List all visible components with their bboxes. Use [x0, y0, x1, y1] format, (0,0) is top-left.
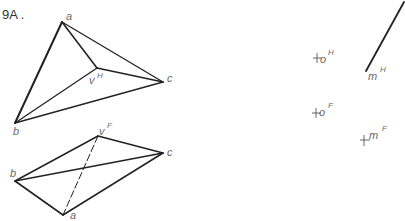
front-view	[15, 136, 163, 215]
edge-a-v-top	[62, 22, 97, 68]
edge-b-v-front	[15, 136, 98, 181]
descriptive-geometry-diagram: 9A . a b c v H b a c v F o H m	[0, 0, 405, 221]
top-view	[15, 22, 163, 123]
label-c-top: c	[167, 72, 173, 84]
label-oH: o	[320, 53, 326, 65]
label-oF-sup: F	[328, 101, 334, 110]
label-b-top: b	[13, 125, 19, 137]
edge-v-c-front	[98, 136, 163, 153]
label-v-top-sup: H	[97, 71, 103, 80]
edge-b-c-top	[15, 82, 163, 123]
figure-title: 9A .	[2, 7, 24, 22]
line-mH	[366, 2, 404, 71]
label-a-front: a	[70, 209, 76, 221]
edge-a-c-top	[62, 22, 163, 82]
label-a-top: a	[66, 10, 72, 22]
right-elements	[312, 53, 370, 146]
label-v-top: v	[89, 74, 96, 86]
label-oH-sup: H	[328, 48, 334, 57]
label-oF: o	[319, 106, 325, 118]
label-b-front: b	[10, 167, 16, 179]
label-mH-sup: H	[380, 65, 386, 74]
label-mH: m	[368, 70, 377, 82]
label-c-front: c	[167, 146, 173, 158]
label-mF: m	[369, 129, 378, 141]
label-v-front: v	[99, 125, 106, 137]
edge-v-c-top	[97, 68, 163, 82]
hidden-edge-v-a-front	[63, 136, 98, 215]
label-mF-sup: F	[382, 124, 388, 133]
label-v-front-sup: F	[107, 121, 113, 130]
edge-a-b-front	[15, 181, 63, 215]
